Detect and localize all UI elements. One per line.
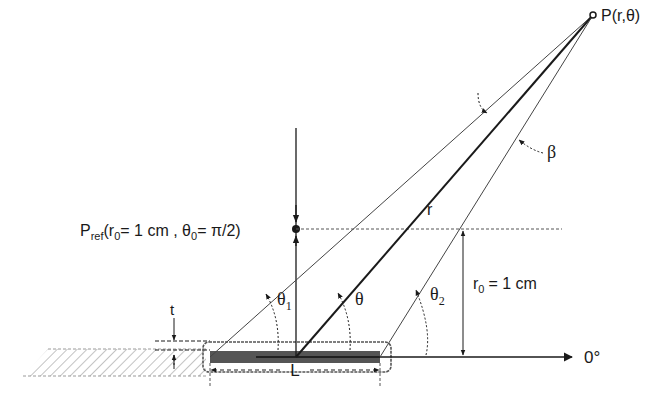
- ray-from-source-start: [210, 15, 593, 357]
- beta-label: β: [547, 142, 556, 162]
- r-label: r: [427, 201, 433, 218]
- beta-arrow-upper: [478, 93, 487, 113]
- point-p-marker: [590, 12, 596, 18]
- L-label: L: [290, 361, 299, 380]
- zero-degree-label: 0°: [584, 348, 600, 367]
- theta-label: θ: [355, 289, 364, 309]
- theta1-label: θ1: [277, 289, 292, 313]
- t-label: t: [170, 301, 175, 318]
- r0-label: r0= 1 cm: [473, 275, 537, 295]
- line-source-diagram: t 0° L P(r,θ) r β θ1 θ θ2 r0= 1 cm: [0, 0, 666, 411]
- pref-label: Pref(r0= 1 cm , θ0= π/2): [80, 222, 241, 242]
- length-dimension: L: [210, 361, 380, 388]
- beta-arrow-lower: [519, 140, 543, 153]
- theta2-arc: [416, 290, 428, 355]
- ray-from-source-end: [380, 15, 593, 357]
- point-p-label: P(r,θ): [601, 7, 640, 24]
- hatched-holder: [23, 349, 206, 376]
- theta2-label: θ2: [430, 284, 445, 308]
